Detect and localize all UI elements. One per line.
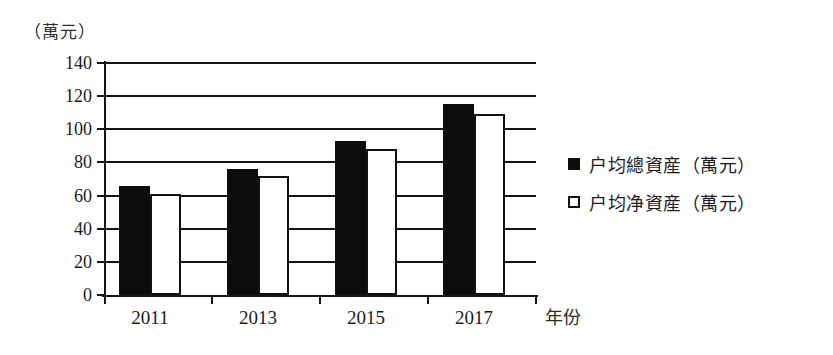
- legend-label-net: 户均净資産（萬元）: [589, 189, 756, 215]
- bar-total-2013: [227, 169, 258, 295]
- x-tick-mark: [427, 295, 429, 304]
- gridline: [104, 62, 536, 64]
- bar-net-2015: [366, 149, 397, 295]
- x-tick-label-2015: 2015: [347, 307, 385, 329]
- legend-item-net[interactable]: 户均净資産（萬元）: [568, 183, 756, 221]
- y-tick-mark: [97, 62, 105, 64]
- legend-item-total[interactable]: 户均總資産（萬元）: [568, 145, 756, 183]
- chart-legend: 户均總資産（萬元） 户均净資産（萬元）: [568, 145, 756, 221]
- x-tick-label-2011: 2011: [131, 307, 168, 329]
- x-tick-mark-origin: [104, 295, 106, 304]
- y-tick-mark: [97, 195, 105, 197]
- gridline: [104, 95, 536, 97]
- y-tick-mark: [97, 161, 105, 163]
- y-tick-mark: [97, 228, 105, 230]
- x-tick-mark: [211, 295, 213, 304]
- bar-net-2011: [150, 194, 181, 295]
- x-axis-name: 年份: [545, 303, 581, 329]
- x-tick-label-2017: 2017: [455, 307, 493, 329]
- y-axis-unit-caption: （萬元）: [24, 18, 96, 43]
- bar-total-2015: [335, 141, 366, 295]
- y-tick-label: 140: [65, 54, 92, 72]
- y-tick-mark: [97, 95, 105, 97]
- y-tick-label: 40: [74, 219, 92, 237]
- y-tick-label: 0: [83, 286, 92, 304]
- x-tick-label-2013: 2013: [239, 307, 277, 329]
- y-tick-label: 120: [65, 87, 92, 105]
- y-tick-label: 60: [74, 186, 92, 204]
- y-tick-label: 100: [65, 120, 92, 138]
- y-tick-mark: [97, 128, 105, 130]
- bar-net-2013: [258, 176, 289, 295]
- plot-area: 140120100806040200 2011201320152017: [104, 63, 536, 295]
- bar-net-2017: [474, 114, 505, 295]
- y-tick-label: 80: [74, 153, 92, 171]
- bar-total-2011: [119, 186, 150, 295]
- hollow-square-icon: [568, 196, 580, 208]
- y-tick-label: 20: [74, 252, 92, 270]
- legend-label-total: 户均總資産（萬元）: [589, 151, 756, 177]
- y-tick-mark: [97, 261, 105, 263]
- filled-square-icon: [568, 158, 580, 170]
- x-tick-mark: [319, 295, 321, 304]
- bar-total-2017: [443, 104, 474, 295]
- x-tick-mark: [535, 295, 537, 304]
